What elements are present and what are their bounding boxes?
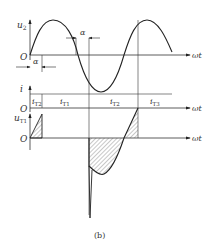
uT1-plot: uT1 O ωt <box>14 108 203 218</box>
uT1-hatched-region-1 <box>30 114 42 138</box>
u2-sine-curve <box>30 20 172 92</box>
u2-x-label: ωt <box>192 51 203 60</box>
i-label: i <box>20 84 23 94</box>
current-plot: i O ωt iT2 iT1 iT2 iT3 <box>20 84 203 114</box>
uT1-origin-label: O <box>20 134 28 144</box>
uT1-x-label: ωt <box>192 134 203 143</box>
i-origin-label: O <box>20 104 28 114</box>
waveform-diagram: u2 O ωt α α i O ωt iT2 iT1 iT2 iT3 uT1 O… <box>0 0 210 252</box>
uT1-hatched-region-2 <box>89 138 124 175</box>
uT1-label: uT1 <box>14 113 27 124</box>
i-x-label: ωt <box>192 104 203 113</box>
figure-caption: (b) <box>94 231 105 240</box>
segment-iT3: iT3 <box>150 97 160 107</box>
u2-label: u2 <box>17 20 27 31</box>
u2-origin-label: O <box>20 52 28 62</box>
alpha-label-1: α <box>33 57 39 66</box>
segment-iT1: iT1 <box>60 97 70 107</box>
segment-iT2-b: iT2 <box>110 97 120 107</box>
segment-iT2-a: iT2 <box>32 97 42 107</box>
uT1-spike <box>89 166 92 218</box>
u2-plot: u2 O ωt α α <box>16 20 203 215</box>
alpha-label-2: α <box>80 28 86 37</box>
